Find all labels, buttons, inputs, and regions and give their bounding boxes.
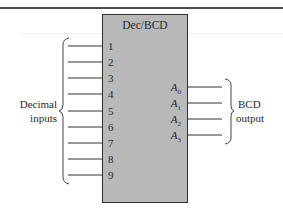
decimal-to-bcd-encoder-block: Dec/BCD 1 2 3 4 5 6 7 8 9 A0 A1 A2 A3 [102, 14, 188, 203]
output-pin-base: A [171, 113, 178, 125]
output-pin-subscript: 3 [178, 136, 182, 144]
left-curly-brace [59, 38, 69, 184]
bcd-output-label: BCD output [236, 97, 264, 125]
output-pin-base: A [171, 81, 178, 93]
output-pin-base: A [171, 97, 178, 109]
output-pin-subscript: 1 [178, 104, 182, 112]
input-pin-label-9: 9 [108, 169, 114, 181]
output-wires [188, 87, 222, 135]
output-pin-label-a0: A0 [171, 81, 181, 98]
bcd-output-label-line1: BCD [236, 97, 264, 111]
output-pin-subscript: 2 [178, 120, 182, 128]
input-pin-label-3: 3 [108, 72, 114, 84]
decimal-inputs-label-line1: Decimal [20, 97, 57, 111]
output-pin-label-a3: A3 [171, 129, 181, 146]
input-pin-label-6: 6 [108, 121, 114, 133]
output-pin-label-a2: A2 [171, 113, 181, 130]
decimal-inputs-label: Decimal inputs [20, 97, 57, 125]
output-pin-base: A [171, 129, 178, 141]
input-pin-label-5: 5 [108, 105, 114, 117]
input-pin-label-4: 4 [108, 88, 114, 100]
input-pin-label-8: 8 [108, 153, 114, 165]
output-pin-subscript: 0 [178, 88, 182, 96]
decimal-inputs-label-line2: inputs [20, 111, 57, 125]
input-pin-label-2: 2 [108, 56, 114, 68]
input-wires [68, 46, 102, 175]
right-curly-brace [225, 79, 234, 144]
block-title: Dec/BCD [103, 19, 187, 31]
output-pin-label-a1: A1 [171, 97, 181, 114]
bcd-output-label-line2: output [236, 111, 264, 125]
input-pin-label-7: 7 [108, 137, 114, 149]
input-pin-label-1: 1 [108, 40, 114, 52]
